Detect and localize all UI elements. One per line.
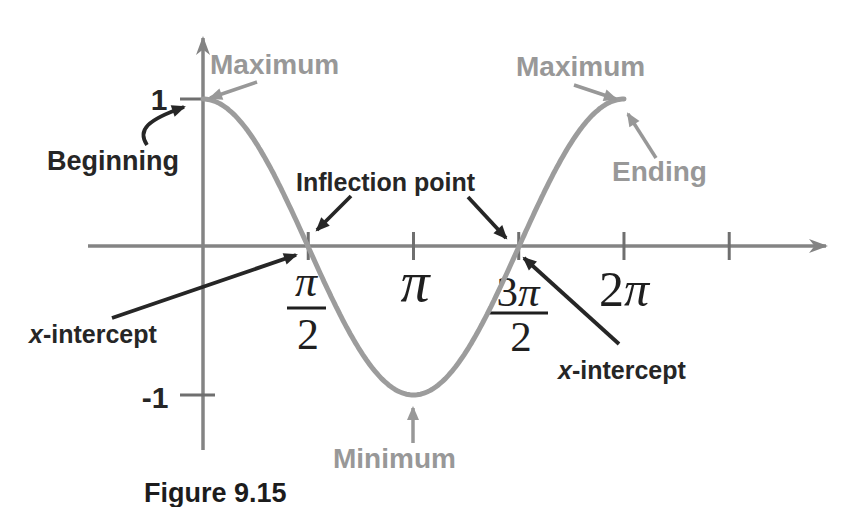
2pi-symbol: π bbox=[624, 261, 651, 317]
3pi-over-2-denominator: 2 bbox=[510, 313, 532, 360]
ending-arrow bbox=[628, 114, 656, 158]
x-intercept-right-label: x-intercept bbox=[556, 356, 686, 384]
x-intercept-right-rest: -intercept bbox=[572, 356, 687, 384]
y-tick-label-1: 1 bbox=[151, 83, 168, 116]
x-intercept-left-x: x bbox=[27, 320, 44, 348]
x-intercept-right-x: x bbox=[556, 356, 573, 384]
x-tick-label-2pi: 2π bbox=[599, 261, 651, 317]
figure-caption: Figure 9.15 bbox=[144, 478, 287, 507]
minimum-label: Minimum bbox=[333, 443, 456, 474]
3pi-symbol: π bbox=[518, 268, 541, 315]
maximum-left-label: Maximum bbox=[210, 49, 339, 80]
pi-over-2-denominator: 2 bbox=[297, 310, 319, 359]
maximum-right-arrow bbox=[574, 85, 616, 99]
inflection-right-arrow bbox=[468, 197, 506, 238]
beginning-label: Beginning bbox=[47, 146, 179, 176]
2pi-coefficient: 2 bbox=[599, 261, 624, 317]
inflection-point-label: Inflection point bbox=[296, 168, 476, 196]
3pi-over-2-numerator: 3π bbox=[496, 268, 541, 315]
maximum-left-arrow bbox=[210, 82, 257, 98]
figure-canvas: 1 -1 π 2 π 3π 2 2π Maximum Maximum Begin… bbox=[0, 0, 861, 507]
x-tick-label-pi: π bbox=[400, 249, 431, 314]
x-intercept-left-label: x-intercept bbox=[27, 320, 157, 348]
figure-9-15: 1 -1 π 2 π 3π 2 2π Maximum Maximum Begin… bbox=[0, 0, 861, 507]
x-intercept-left-rest: -intercept bbox=[43, 320, 158, 348]
axes bbox=[88, 38, 826, 450]
x-tick-label-3pi-over-2: 3π 2 bbox=[489, 268, 548, 360]
inflection-left-arrow bbox=[317, 196, 351, 230]
ending-label: Ending bbox=[612, 156, 707, 187]
maximum-right-label: Maximum bbox=[516, 51, 645, 82]
y-tick-label-neg1: -1 bbox=[142, 381, 169, 414]
